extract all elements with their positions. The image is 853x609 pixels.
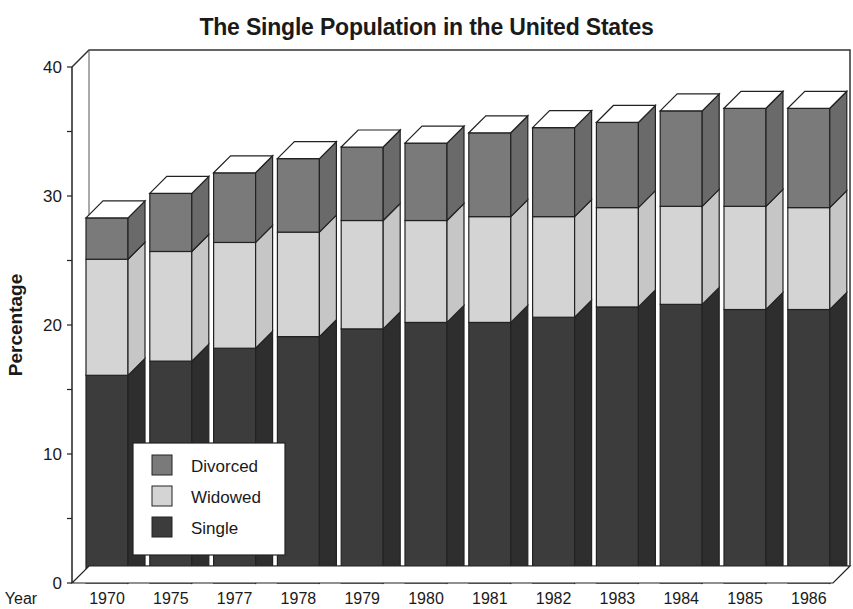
bar-segment-single-side xyxy=(575,300,592,583)
y-tick-label: 10 xyxy=(43,445,62,464)
bar-segment-divorced-front xyxy=(214,173,256,243)
y-tick-label: 30 xyxy=(43,187,62,206)
bar-segment-divorced-side xyxy=(575,111,592,217)
bar-segment-widowed-side xyxy=(447,204,464,323)
bar-segment-widowed-front xyxy=(86,259,128,375)
bar-segment-divorced-side xyxy=(766,91,783,206)
bar-segment-single-front xyxy=(596,307,638,583)
bar-segment-widowed-front xyxy=(533,217,575,318)
x-tick-label: 1982 xyxy=(536,590,572,607)
bar-segment-widowed-side xyxy=(319,215,336,336)
x-tick-label: 1975 xyxy=(153,590,189,607)
bar-segment-single-front xyxy=(469,322,511,583)
x-tick-label: 1980 xyxy=(408,590,444,607)
bar-segment-divorced-front xyxy=(341,147,383,221)
bar-segment-single-front xyxy=(724,310,766,583)
bar-segment-widowed-side xyxy=(638,191,655,307)
bar-segment-single-side xyxy=(830,293,847,583)
bar-segment-divorced-side xyxy=(830,91,847,207)
x-axis-label: Year xyxy=(5,590,38,607)
y-tick-label: 20 xyxy=(43,316,62,335)
x-tick-label: 1985 xyxy=(727,590,763,607)
bar-segment-single-front xyxy=(86,375,128,583)
legend-label-widowed: Widowed xyxy=(191,488,261,507)
bar-segment-single-side xyxy=(766,293,783,583)
bar-segment-widowed-side xyxy=(256,225,273,348)
bar-segment-widowed-side xyxy=(511,200,528,323)
legend-label-single: Single xyxy=(191,519,238,538)
bar-segment-divorced-front xyxy=(150,193,192,251)
bar-segment-widowed-front xyxy=(788,208,830,310)
bar-1982 xyxy=(533,111,592,583)
bar-segment-single-front xyxy=(341,329,383,583)
bar-segment-divorced-side xyxy=(638,105,655,207)
stacked-3d-bar-chart: 010203040 197019751977197819791980198119… xyxy=(0,0,853,609)
legend-swatch-single xyxy=(152,517,172,537)
bar-segment-widowed-front xyxy=(277,232,319,336)
bar-segment-widowed-front xyxy=(150,251,192,361)
x-tick-label: 1978 xyxy=(281,590,317,607)
bar-segment-divorced-front xyxy=(533,128,575,217)
bar-1986 xyxy=(788,91,847,583)
bar-segment-widowed-side xyxy=(702,189,719,304)
x-tick-label: 1979 xyxy=(344,590,380,607)
bar-segment-single-side xyxy=(511,305,528,583)
x-tick-label: 1984 xyxy=(663,590,699,607)
bar-segment-single-front xyxy=(660,304,702,583)
x-tick-label: 1983 xyxy=(600,590,636,607)
bar-1980 xyxy=(405,126,464,583)
bar-segment-single-side xyxy=(638,290,655,583)
bar-1985 xyxy=(724,91,783,583)
bar-segment-widowed-front xyxy=(341,221,383,329)
bar-segment-widowed-side xyxy=(128,242,145,375)
bar-segment-single-side xyxy=(383,312,400,583)
bar-1984 xyxy=(660,94,719,583)
bar-segment-widowed-front xyxy=(214,242,256,348)
bar-segment-widowed-front xyxy=(596,208,638,307)
bar-segment-divorced-front xyxy=(277,159,319,233)
bar-segment-divorced-front xyxy=(724,108,766,206)
bar-1978 xyxy=(277,142,336,583)
bar-segment-single-front xyxy=(405,322,447,583)
x-tick-label: 1981 xyxy=(472,590,508,607)
bar-segment-divorced-front xyxy=(788,108,830,207)
floor xyxy=(72,566,850,583)
bar-segment-widowed-side xyxy=(830,191,847,310)
bar-segment-widowed-front xyxy=(724,206,766,309)
bar-segment-single-side xyxy=(702,287,719,583)
x-tick-label: 1977 xyxy=(217,590,253,607)
bar-1983 xyxy=(596,105,655,583)
bar-segment-divorced-front xyxy=(596,122,638,207)
bar-segment-widowed-side xyxy=(383,204,400,329)
x-axis: 1970197519771978197919801981198219831984… xyxy=(5,566,850,607)
x-tick-label: 1986 xyxy=(791,590,827,607)
bar-segment-divorced-side xyxy=(702,94,719,206)
y-tick-label: 40 xyxy=(43,58,62,77)
x-tick-label: 1970 xyxy=(89,590,125,607)
legend-swatch-divorced xyxy=(152,455,172,475)
bar-1979 xyxy=(341,130,400,583)
y-axis: 010203040 xyxy=(43,58,72,593)
bar-segment-divorced-front xyxy=(86,218,128,259)
bar-segment-single-side xyxy=(319,320,336,583)
bar-segment-widowed-front xyxy=(469,217,511,323)
legend-swatch-widowed xyxy=(152,486,172,506)
bar-segment-divorced-front xyxy=(660,111,702,206)
bar-segment-widowed-side xyxy=(766,189,783,309)
legend-label-divorced: Divorced xyxy=(191,457,258,476)
bar-segment-widowed-side xyxy=(575,200,592,318)
bar-1981 xyxy=(469,116,528,583)
bar-segment-single-front xyxy=(788,310,830,583)
bar-segment-divorced-front xyxy=(405,143,447,220)
bar-segment-widowed-front xyxy=(660,206,702,304)
bar-segment-single-side xyxy=(447,305,464,583)
y-axis-label: Percentage xyxy=(5,274,26,376)
bar-segment-widowed-front xyxy=(405,221,447,323)
bar-segment-widowed-side xyxy=(192,234,209,361)
y-tick-label: 0 xyxy=(53,574,62,593)
bar-segment-single-front xyxy=(533,317,575,583)
legend: DivorcedWidowedSingle xyxy=(133,443,285,555)
bar-segment-divorced-front xyxy=(469,133,511,217)
